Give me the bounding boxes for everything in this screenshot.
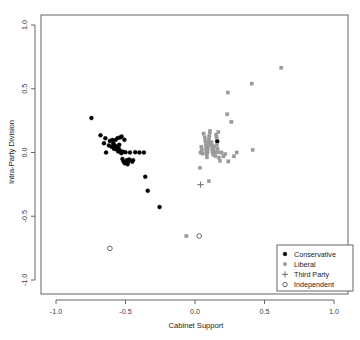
- scatter-plot-figure: -1.0-0.50.00.51.0 -1.0-0.50.00.51.0 Cons…: [0, 0, 360, 340]
- point-glyph: [128, 151, 132, 155]
- point-glyph: [202, 132, 205, 135]
- point-glyph: [102, 141, 106, 145]
- point-glyph: [283, 252, 287, 256]
- y-axis-title: Intra-Party Division: [7, 120, 16, 184]
- x-tick-label: 0.5: [260, 307, 270, 316]
- point-glyph: [98, 133, 102, 137]
- marker-filled-square: [200, 145, 203, 148]
- point-glyph: [226, 91, 229, 94]
- marker-filled-square: [198, 166, 201, 169]
- marker-filled-circle: [158, 205, 162, 209]
- marker-filled-square: [207, 180, 210, 183]
- marker-filled-square: [226, 113, 229, 116]
- point-glyph: [117, 143, 121, 147]
- marker-filled-square: [204, 139, 207, 142]
- x-axis-title: Cabinet Support: [169, 321, 225, 330]
- point-glyph: [89, 116, 93, 120]
- point-glyph: [108, 246, 113, 251]
- point-glyph: [204, 139, 207, 142]
- point-glyph: [143, 175, 147, 179]
- marker-filled-square: [206, 151, 209, 154]
- marker-filled-circle: [122, 138, 126, 142]
- point-glyph: [205, 156, 208, 159]
- point-glyph: [216, 151, 219, 154]
- point-glyph: [124, 150, 128, 154]
- point-glyph: [203, 136, 206, 139]
- marker-filled-circle: [283, 252, 287, 256]
- marker-filled-circle: [117, 143, 121, 147]
- marker-filled-circle: [142, 151, 146, 155]
- point-glyph: [215, 139, 219, 143]
- marker-open-circle: [197, 234, 202, 239]
- marker-filled-circle: [104, 151, 108, 155]
- marker-filled-circle: [137, 151, 141, 155]
- point-glyph: [230, 120, 233, 123]
- legend-item-label: Independent: [294, 280, 334, 289]
- marker-filled-square: [226, 91, 229, 94]
- marker-filled-square: [235, 151, 238, 154]
- data-points-layer: [89, 66, 282, 251]
- point-glyph: [197, 234, 202, 239]
- point-glyph: [185, 234, 188, 237]
- point-glyph: [235, 151, 238, 154]
- marker-filled-square: [216, 151, 219, 154]
- chart-legend: ConservativeLiberalThird PartyIndependen…: [277, 245, 353, 291]
- marker-filled-square: [220, 151, 223, 154]
- point-glyph: [280, 66, 283, 69]
- marker-filled-square: [215, 136, 218, 139]
- x-tick-label: 0.0: [190, 307, 200, 316]
- marker-filled-square: [207, 144, 210, 147]
- marker-filled-circle: [124, 150, 128, 154]
- marker-filled-square: [185, 234, 188, 237]
- point-glyph: [232, 155, 235, 158]
- marker-filled-square: [202, 132, 205, 135]
- point-glyph: [216, 147, 219, 150]
- point-glyph: [142, 151, 146, 155]
- point-glyph: [218, 159, 221, 162]
- y-tick-label: -1.0: [20, 274, 29, 286]
- y-tick-label: 1.0: [20, 20, 29, 30]
- point-glyph: [131, 158, 135, 162]
- series-third-party: [197, 181, 203, 187]
- marker-filled-circle: [128, 151, 132, 155]
- point-glyph: [137, 151, 141, 155]
- x-tick-label: -0.5: [119, 307, 131, 316]
- marker-filled-square: [217, 156, 220, 159]
- marker-filled-square: [203, 136, 206, 139]
- marker-open-circle: [108, 246, 113, 251]
- point-glyph: [120, 135, 124, 139]
- y-axis: -1.0-0.50.00.51.0: [20, 20, 35, 286]
- marker-filled-circle: [146, 189, 150, 193]
- point-glyph: [199, 151, 202, 154]
- legend-item-label: Conservative: [294, 250, 336, 259]
- point-glyph: [226, 113, 229, 116]
- point-glyph: [208, 129, 211, 132]
- point-glyph: [283, 263, 286, 266]
- marker-filled-circle: [215, 139, 219, 143]
- point-glyph: [251, 148, 254, 151]
- point-glyph: [215, 143, 218, 146]
- point-glyph: [206, 151, 209, 154]
- marker-filled-square: [210, 140, 213, 143]
- marker-filled-square: [227, 160, 230, 163]
- point-glyph: [206, 148, 209, 151]
- x-axis: -1.0-0.50.00.51.0: [50, 300, 339, 316]
- x-tick-label: 1.0: [329, 307, 339, 316]
- marker-filled-square: [205, 156, 208, 159]
- marker-filled-square: [280, 66, 283, 69]
- marker-filled-square: [232, 155, 235, 158]
- marker-filled-square: [214, 154, 217, 157]
- point-glyph: [104, 151, 108, 155]
- marker-filled-square: [199, 151, 202, 154]
- marker-plus: [197, 181, 203, 187]
- marker-filled-circle: [98, 133, 102, 137]
- legend-item-label: Third Party: [294, 270, 330, 279]
- point-glyph: [208, 135, 211, 138]
- point-glyph: [200, 145, 203, 148]
- marker-filled-square: [283, 263, 286, 266]
- marker-filled-square: [206, 148, 209, 151]
- point-glyph: [207, 144, 210, 147]
- marker-filled-circle: [133, 150, 137, 154]
- marker-filled-circle: [102, 141, 106, 145]
- y-tick-label: -0.5: [20, 210, 29, 222]
